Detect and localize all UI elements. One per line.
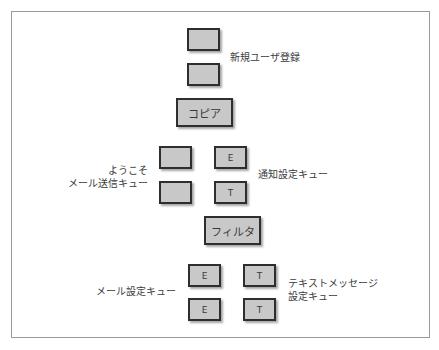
mail-queue-box-2: E	[188, 298, 221, 321]
copy-box: コピア	[176, 98, 233, 127]
signup-queue-box-1	[187, 28, 220, 51]
welcome-queue-box-1	[159, 146, 192, 169]
welcome-queue-label-line1: ようこそ	[40, 164, 148, 177]
text-queue-box-2: T	[243, 298, 276, 321]
text-queue-label: テキストメッセージ 設定キュー	[288, 277, 378, 303]
notify-queue-email-box: E	[214, 146, 247, 169]
notify-queue-label: 通知設定キュー	[258, 168, 328, 181]
welcome-queue-label-line2: メール送信キュー	[40, 177, 148, 190]
signup-queue-label: 新規ユーザ登録	[230, 51, 300, 64]
filter-box: フィルタ	[204, 216, 261, 245]
text-queue-label-line2: 設定キュー	[288, 290, 378, 303]
mail-queue-label: メール設定キュー	[60, 285, 176, 298]
notify-queue-text-box: T	[214, 181, 247, 204]
signup-queue-box-2	[187, 63, 220, 86]
welcome-queue-box-2	[159, 181, 192, 204]
welcome-queue-label: ようこそ メール送信キュー	[40, 164, 148, 190]
text-queue-label-line1: テキストメッセージ	[288, 277, 378, 290]
mail-queue-box-1: E	[188, 264, 221, 287]
text-queue-box-1: T	[243, 264, 276, 287]
